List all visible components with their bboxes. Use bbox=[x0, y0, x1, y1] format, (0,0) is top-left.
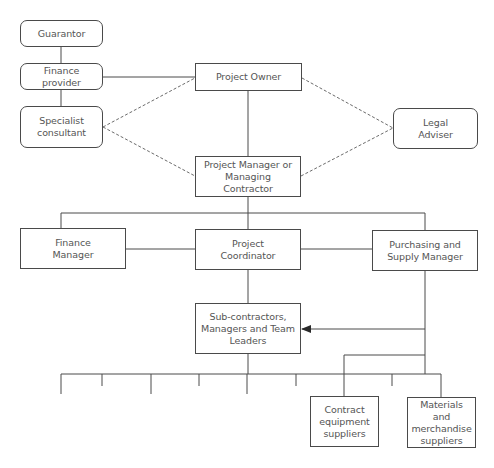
node-specialist-consultant: Specialist consultant bbox=[20, 106, 103, 148]
node-label: Finance provider bbox=[24, 65, 99, 89]
node-finance-manager: Finance Manager bbox=[20, 228, 126, 269]
dashed-manager-legal bbox=[301, 128, 393, 176]
node-label: Purchasing and Supply Manager bbox=[387, 239, 463, 263]
node-contract-equipment-suppliers: Contract equipment suppliers bbox=[310, 396, 379, 447]
node-subcontractors: Sub-contractors, Managers and Team Leade… bbox=[195, 303, 301, 354]
node-purchasing-manager: Purchasing and Supply Manager bbox=[372, 230, 478, 271]
node-guarantor: Guarantor bbox=[20, 20, 103, 47]
dashed-specialist-manager bbox=[103, 127, 195, 176]
node-legal-adviser: Legal Adviser bbox=[393, 108, 478, 149]
org-diagram: Guarantor Finance provider Specialist co… bbox=[0, 0, 494, 468]
node-label: Project Coordinator bbox=[221, 238, 276, 262]
node-project-coordinator: Project Coordinator bbox=[195, 229, 301, 270]
node-label: Project Manager or Managing Contractor bbox=[199, 159, 297, 195]
node-label: Project Owner bbox=[216, 71, 281, 83]
node-label: Guarantor bbox=[38, 28, 86, 40]
node-label: Legal Adviser bbox=[418, 117, 453, 141]
dashed-owner-legal bbox=[302, 78, 393, 128]
node-project-manager: Project Manager or Managing Contractor bbox=[195, 156, 301, 197]
node-project-owner: Project Owner bbox=[195, 63, 302, 91]
node-finance-provider: Finance provider bbox=[20, 63, 103, 90]
node-label: Contract equipment suppliers bbox=[319, 404, 370, 440]
node-label: Materials and merchandise suppliers bbox=[411, 399, 472, 447]
node-label: Sub-contractors, Managers and Team Leade… bbox=[201, 311, 295, 347]
dashed-specialist-owner bbox=[103, 78, 195, 127]
node-label: Specialist consultant bbox=[37, 115, 86, 139]
node-label: Finance Manager bbox=[53, 237, 94, 261]
node-materials-suppliers: Materials and merchandise suppliers bbox=[407, 397, 476, 448]
